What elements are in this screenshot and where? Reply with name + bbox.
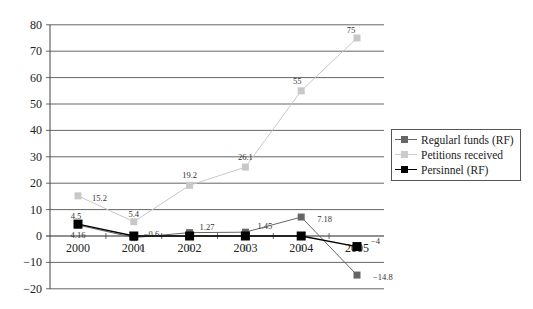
data-label: 19.2	[182, 170, 197, 180]
data-label: −14.8	[373, 272, 393, 282]
square-marker-icon	[354, 272, 361, 279]
square-marker-icon	[75, 192, 82, 199]
square-marker-icon	[353, 242, 362, 251]
square-marker-icon	[401, 136, 408, 143]
y-tick-label: 0	[36, 229, 42, 243]
legend-label: Persinnel (RF)	[421, 162, 488, 178]
data-label: 4.16	[71, 230, 86, 240]
data-label: 75	[347, 25, 356, 35]
y-tick-label: 70	[30, 44, 42, 58]
square-marker-icon	[401, 166, 408, 173]
data-label: 55	[293, 76, 302, 86]
y-tick-label: −10	[23, 255, 42, 269]
legend-item-petitions-received: Petitions received	[392, 147, 520, 163]
legend: Regularl funds (RF) Petitions received P…	[391, 129, 521, 181]
data-label: 1.45	[257, 221, 272, 231]
square-marker-icon	[297, 232, 306, 241]
y-tick-label: 60	[30, 71, 42, 85]
y-tick-label: 80	[30, 18, 42, 32]
legend-label: Regularl funds (RF)	[421, 132, 514, 148]
data-label: 1.27	[200, 222, 215, 232]
data-label: −0.6	[144, 229, 159, 239]
data-label: 0	[140, 243, 144, 253]
square-marker-icon	[242, 164, 249, 171]
series-line	[78, 38, 357, 222]
y-tick-label: −20	[23, 282, 42, 296]
square-marker-icon	[185, 232, 194, 241]
square-marker-icon	[401, 151, 408, 158]
data-label: 0	[243, 243, 247, 253]
data-label: 15.2	[92, 193, 107, 203]
legend-item-regular-funds: Regularl funds (RF)	[392, 132, 520, 148]
x-tick-label: 2000	[66, 241, 90, 255]
y-tick-label: 30	[30, 150, 42, 164]
data-label: 0	[299, 243, 303, 253]
y-axis: −20−1001020304050607080	[23, 18, 50, 296]
data-label: 5.4	[128, 209, 139, 219]
y-tick-label: 50	[30, 97, 42, 111]
data-label: 4.5	[71, 211, 82, 221]
square-marker-icon	[241, 232, 250, 241]
data-label: −4	[371, 236, 381, 246]
legend-item-personnel: Persinnel (RF)	[392, 162, 520, 178]
data-label: 0	[187, 243, 191, 253]
y-tick-label: 20	[30, 176, 42, 190]
square-marker-icon	[130, 218, 137, 225]
y-tick-label: 40	[30, 123, 42, 137]
square-marker-icon	[354, 35, 361, 42]
square-marker-icon	[186, 182, 193, 189]
data-label: 26.1	[238, 152, 253, 162]
y-tick-label: 10	[30, 203, 42, 217]
series-line	[78, 217, 357, 275]
legend-label: Petitions received	[421, 147, 503, 163]
square-marker-icon	[298, 214, 305, 221]
data-label: 7.18	[317, 214, 332, 224]
square-marker-icon	[298, 87, 305, 94]
gridlines	[46, 25, 384, 289]
square-marker-icon	[129, 232, 138, 241]
